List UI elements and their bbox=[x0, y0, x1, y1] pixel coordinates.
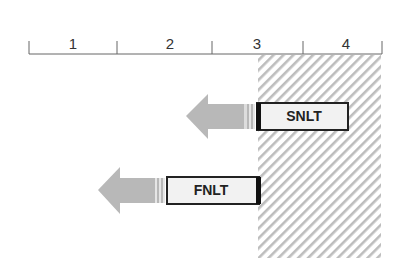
axis-label-4: 4 bbox=[331, 35, 361, 52]
snlt-label: SNLT bbox=[262, 108, 346, 124]
snlt-arrow-icon bbox=[186, 94, 255, 139]
axis-label-2: 2 bbox=[155, 35, 185, 52]
axis-label-3: 3 bbox=[242, 35, 272, 52]
fnlt-label: FNLT bbox=[168, 182, 254, 198]
hatched-region bbox=[258, 55, 381, 258]
axis-label-1: 1 bbox=[58, 35, 88, 52]
fnlt-arrow-icon bbox=[98, 167, 165, 214]
